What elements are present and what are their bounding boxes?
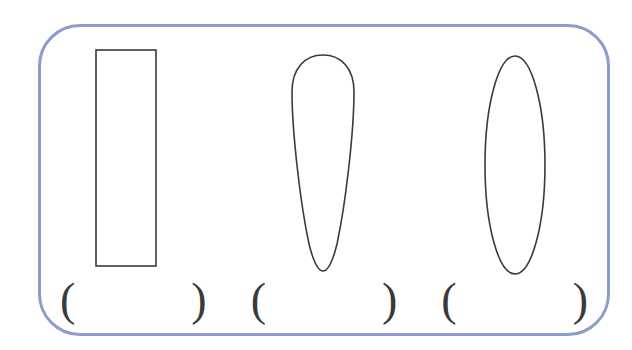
close-paren-2: ) [382, 277, 397, 323]
open-paren-2: ( [251, 277, 266, 323]
open-paren-3: ( [441, 277, 456, 323]
open-paren-1: ( [60, 277, 75, 323]
answer-blank-3[interactable]: ( ) [419, 277, 610, 323]
answer-input-3[interactable] [457, 300, 573, 301]
answer-input-2[interactable] [266, 300, 382, 301]
answer-blanks-row: ( ) ( ) ( ) [38, 272, 610, 328]
answer-input-1[interactable] [75, 300, 191, 301]
close-paren-3: ) [573, 277, 588, 323]
answer-blank-2[interactable]: ( ) [229, 277, 420, 323]
close-paren-1: ) [191, 277, 206, 323]
answer-blank-1[interactable]: ( ) [38, 277, 229, 323]
